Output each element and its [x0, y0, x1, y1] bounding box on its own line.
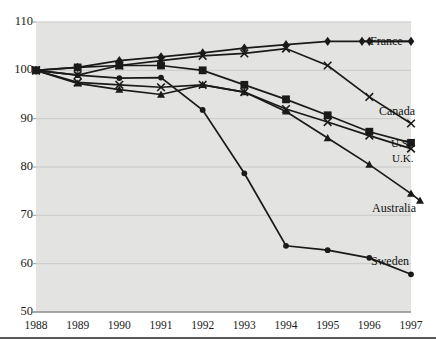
data-point-square [74, 64, 82, 72]
data-point-circle [200, 107, 206, 113]
series-label-sweden: Sweden [371, 254, 409, 269]
data-point-square [324, 111, 332, 119]
data-point-circle [75, 72, 81, 78]
series-label-france: France [370, 34, 403, 49]
series-us [32, 62, 415, 147]
data-point-circle [33, 67, 39, 73]
series-france [33, 37, 415, 75]
data-point-circle [408, 271, 414, 277]
series-line [36, 70, 411, 148]
series-line [36, 70, 411, 274]
series-label-uk: U.K. [392, 152, 413, 164]
chart-root: 5060708090100110 19881989199019911992199… [0, 0, 436, 339]
data-point-square [240, 81, 248, 89]
data-point-triangle [324, 134, 332, 141]
data-point-circle [325, 247, 331, 253]
chart-canvas [0, 0, 436, 339]
data-point-square [157, 62, 165, 70]
series-line [36, 70, 411, 193]
series-label-australia: Australia [372, 201, 416, 216]
data-point-circle [116, 75, 122, 81]
data-point-circle [241, 170, 247, 176]
data-point-circle [158, 75, 164, 81]
data-point-x [324, 62, 332, 70]
data-point-x [407, 120, 415, 128]
data-point-square [115, 62, 123, 70]
data-point-triangle [365, 161, 373, 168]
series-canada [32, 45, 415, 128]
data-point-circle [283, 243, 289, 249]
data-point-diamond [324, 37, 331, 46]
data-point-x [366, 93, 374, 101]
series-sweden [33, 67, 414, 277]
series-label-us: U.S. [391, 137, 411, 149]
series-label-canada: Canada [379, 104, 415, 119]
data-point-square [199, 66, 207, 74]
series-uk [32, 67, 415, 153]
data-point-square [282, 95, 290, 103]
data-point-diamond [359, 37, 366, 46]
